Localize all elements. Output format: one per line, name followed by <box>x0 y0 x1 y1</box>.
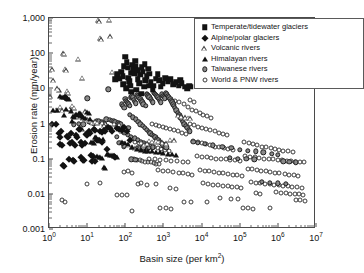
x-minor-tick-mark <box>228 225 229 228</box>
x-minor-tick-mark <box>181 225 182 228</box>
data-point-open-circle <box>122 169 127 174</box>
data-point-filled-square <box>178 77 184 83</box>
data-point-open-circle <box>239 185 244 190</box>
x-minor-tick-mark <box>231 225 232 228</box>
y-minor-tick-mark <box>49 137 52 138</box>
x-tick-label: 103 <box>157 227 171 243</box>
y-minor-tick-mark <box>49 128 52 129</box>
y-minor-tick-mark <box>49 77 52 78</box>
x-minor-tick-mark <box>186 225 187 228</box>
y-minor-tick-mark <box>49 58 52 59</box>
y-minor-tick-mark <box>49 67 52 68</box>
x-minor-tick-mark <box>151 225 152 228</box>
x-minor-tick-mark <box>251 225 252 228</box>
x-minor-tick-mark <box>274 225 275 228</box>
data-point-open-circle <box>168 186 173 191</box>
data-point-open-circle <box>301 192 306 197</box>
data-point-filled-circle <box>237 147 242 152</box>
x-minor-tick-mark <box>148 225 149 228</box>
x-tick-label: 101 <box>80 227 94 243</box>
data-point-open-circle <box>174 186 179 191</box>
x-minor-tick-mark <box>116 225 117 228</box>
data-point-open-circle <box>163 206 168 211</box>
data-point-filled-square <box>163 76 169 82</box>
legend-item-3: Himalayan rivers <box>198 54 359 65</box>
data-point-filled-circle <box>143 103 148 108</box>
x-minor-tick-mark <box>300 225 301 228</box>
y-minor-tick-mark <box>49 160 52 161</box>
data-point-open-circle <box>302 198 307 203</box>
y-minor-tick-mark <box>49 134 52 135</box>
data-point-filled-square <box>147 71 153 77</box>
x-minor-tick-mark <box>269 225 270 228</box>
x-minor-tick-mark <box>161 225 162 228</box>
data-point-open-triangle <box>79 75 85 80</box>
data-point-filled-diamond <box>59 142 65 148</box>
data-point-filled-circle <box>187 129 192 134</box>
x-tick-mark <box>239 223 240 227</box>
x-minor-tick-mark <box>113 225 114 228</box>
y-minor-tick-mark <box>49 25 52 26</box>
data-point-open-circle <box>124 193 129 198</box>
data-point-open-triangle <box>98 37 104 42</box>
x-minor-tick-mark <box>312 225 313 228</box>
x-minor-tick-mark <box>110 225 111 228</box>
data-point-open-circle <box>169 158 174 163</box>
x-minor-tick-mark <box>157 225 158 228</box>
y-minor-tick-mark <box>49 177 52 178</box>
data-point-open-circle <box>250 206 255 211</box>
legend-item-4: Taiwanese rivers <box>198 64 359 75</box>
y-tick-label: 0.01 <box>27 189 49 199</box>
legend-marker-open-circle <box>198 75 211 86</box>
y-minor-tick-mark <box>49 218 52 219</box>
y-minor-tick-mark <box>49 28 52 29</box>
data-point-filled-circle <box>84 96 89 101</box>
data-point-open-circle <box>229 196 234 201</box>
data-point-filled-circle <box>261 150 266 155</box>
x-minor-tick-mark <box>60 225 61 228</box>
y-minor-tick-mark <box>49 166 52 167</box>
y-minor-tick-mark <box>49 93 52 94</box>
x-minor-tick-mark <box>310 225 311 228</box>
x-tick-label: 107 <box>309 227 323 243</box>
plot-area: 1,0001001010.10.010.001 1001011021031041… <box>48 17 315 228</box>
y-minor-tick-mark <box>49 19 52 20</box>
y-minor-tick-mark <box>49 126 52 127</box>
x-minor-tick-mark <box>289 225 290 228</box>
legend-item-1: Alpine/polar glaciers <box>198 33 359 44</box>
data-point-filled-diamond <box>98 139 104 145</box>
x-minor-tick-mark <box>193 225 194 228</box>
data-point-open-circle <box>202 77 207 82</box>
y-tick-label: 1,000 <box>22 13 49 23</box>
data-point-open-circle <box>165 169 170 174</box>
data-point-open-circle <box>163 158 168 163</box>
data-point-open-circle <box>299 185 304 190</box>
legend-marker-filled-diamond <box>198 33 211 44</box>
data-point-filled-diamond <box>201 35 207 41</box>
legend-item-5: World & PNW rivers <box>198 75 359 86</box>
x-minor-tick-mark <box>213 225 214 228</box>
x-tick-label: 105 <box>233 227 247 243</box>
y-tick-label: 0.1 <box>32 154 49 164</box>
y-minor-tick-mark <box>49 212 52 213</box>
data-point-open-circle <box>245 206 250 211</box>
data-point-open-triangle <box>187 116 193 121</box>
data-point-filled-diamond <box>61 162 67 168</box>
data-point-filled-circle <box>253 149 258 154</box>
x-minor-tick-mark <box>199 225 200 228</box>
y-minor-tick-mark <box>49 169 52 170</box>
data-point-filled-square <box>155 72 161 78</box>
data-point-filled-diamond <box>52 121 58 127</box>
y-minor-tick-mark <box>49 199 52 200</box>
data-point-open-circle <box>130 208 135 213</box>
y-minor-tick-mark <box>49 89 52 90</box>
legend-label: Himalayan rivers <box>211 54 268 65</box>
data-point-filled-circle <box>275 152 280 157</box>
x-minor-tick-mark <box>75 225 76 228</box>
x-tick-mark <box>316 223 317 227</box>
x-tick-mark <box>125 223 126 227</box>
data-point-open-circle <box>192 99 197 104</box>
data-point-open-triangle <box>96 19 102 24</box>
x-minor-tick-mark <box>266 225 267 228</box>
y-minor-tick-mark <box>49 148 52 149</box>
